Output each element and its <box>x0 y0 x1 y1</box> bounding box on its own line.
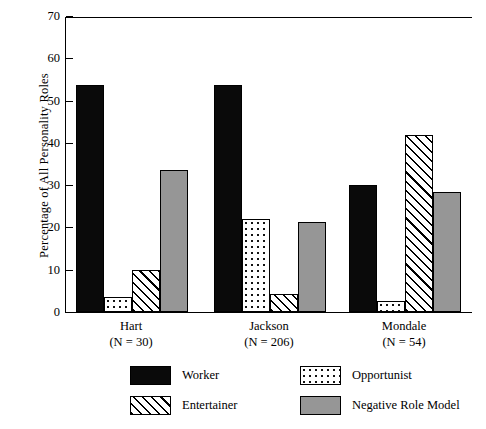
bar-jackson-entertainer <box>270 294 298 312</box>
category-sample-size: (N = 206) <box>244 334 293 350</box>
bar-hart-worker <box>76 85 104 312</box>
legend-label: Negative Role Model <box>352 398 460 413</box>
bar-chart-figure: Percentage of All Personality Roles 0102… <box>0 0 486 429</box>
legend-item-negative-role-model: Negative Role Model <box>300 396 460 415</box>
y-tick-label: 10 <box>48 262 61 277</box>
x-axis-label-mondale: Mondale(N = 54) <box>382 318 426 350</box>
legend-swatch-negative-role-model <box>300 396 341 415</box>
bar-jackson-opportunist <box>242 219 270 312</box>
legend-swatch-opportunist <box>300 366 341 385</box>
y-tick-mark <box>66 58 73 59</box>
plot-area: 010203040506070 <box>65 17 472 313</box>
y-tick-mark <box>66 16 73 17</box>
bar-mondale-worker <box>349 185 377 312</box>
legend-label: Entertainer <box>182 398 238 413</box>
y-tick-label: 60 <box>48 51 61 66</box>
y-tick-label: 70 <box>48 9 61 24</box>
y-tick-mark <box>66 227 73 228</box>
category-name: Mondale <box>382 319 426 333</box>
y-tick-label: 30 <box>48 178 61 193</box>
category-name: Hart <box>120 319 142 333</box>
x-axis-label-jackson: Jackson(N = 206) <box>244 318 293 350</box>
bar-mondale-negative-role-model <box>433 192 461 313</box>
y-tick-label: 40 <box>48 135 61 150</box>
y-tick-label: 20 <box>48 220 61 235</box>
y-tick-label: 0 <box>54 305 60 320</box>
y-tick-mark <box>66 101 73 102</box>
y-tick-mark <box>66 143 73 144</box>
chart-legend: WorkerOpportunistEntertainerNegative Rol… <box>130 360 470 420</box>
legend-item-entertainer: Entertainer <box>130 396 238 415</box>
legend-label: Worker <box>182 368 219 383</box>
y-tick-label: 50 <box>48 93 61 108</box>
bar-mondale-opportunist <box>377 301 405 312</box>
bar-jackson-negative-role-model <box>298 222 326 312</box>
bar-mondale-entertainer <box>405 135 433 312</box>
legend-item-worker: Worker <box>130 366 219 385</box>
y-tick-mark <box>66 270 73 271</box>
legend-swatch-worker <box>130 366 171 385</box>
bar-hart-entertainer <box>132 270 160 312</box>
bar-jackson-worker <box>214 85 242 312</box>
x-axis-label-hart: Hart(N = 30) <box>109 318 152 350</box>
category-sample-size: (N = 30) <box>109 334 152 350</box>
legend-label: Opportunist <box>352 368 412 383</box>
legend-item-opportunist: Opportunist <box>300 366 412 385</box>
y-tick-mark <box>66 185 73 186</box>
category-name: Jackson <box>249 319 289 333</box>
legend-row: WorkerOpportunist <box>130 360 470 390</box>
legend-row: EntertainerNegative Role Model <box>130 390 470 420</box>
bar-hart-negative-role-model <box>160 170 188 312</box>
bar-hart-opportunist <box>104 297 132 312</box>
y-tick-mark <box>66 312 73 313</box>
legend-swatch-entertainer <box>130 396 171 415</box>
category-sample-size: (N = 54) <box>382 334 426 350</box>
